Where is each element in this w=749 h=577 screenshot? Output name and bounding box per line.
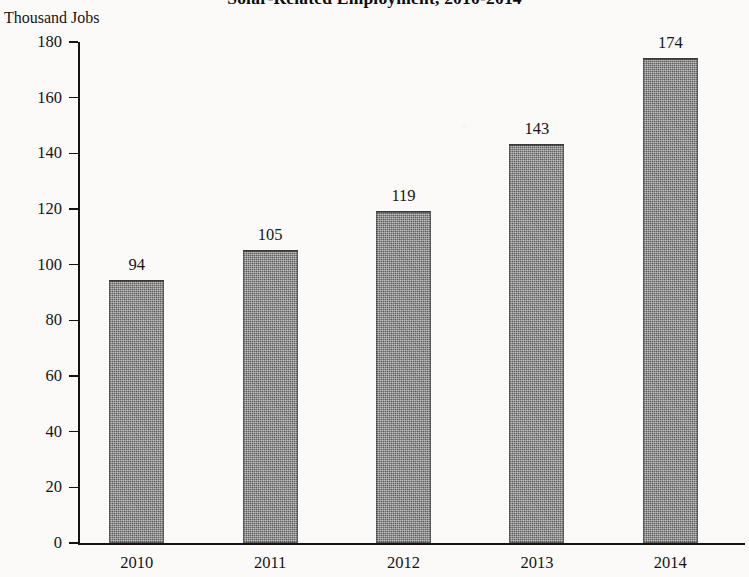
bar: [509, 144, 564, 543]
bar-value-label: 174: [658, 33, 683, 53]
bar: [643, 58, 698, 543]
y-axis-tick-label: 20: [46, 477, 63, 497]
bar-value-label: 143: [525, 119, 550, 139]
y-axis-tick: [69, 153, 78, 155]
chart-title-clip: Solar-Related Employment, 2010-2014: [0, 0, 749, 11]
y-axis-tick-label: 80: [46, 310, 63, 330]
bar-value-label: 105: [258, 225, 283, 245]
y-axis-tick: [69, 487, 78, 489]
y-axis-tick: [69, 208, 78, 210]
y-axis-tick-label: 60: [46, 366, 63, 386]
y-axis-tick-label: 100: [37, 255, 62, 275]
y-axis-tick: [69, 264, 78, 266]
y-axis-tick: [69, 97, 78, 99]
plot-area: 020406080100120140160180 94105119143174 …: [78, 42, 745, 543]
bar-chart: Solar-Related Employment, 2010-2014 Thou…: [0, 0, 749, 577]
x-axis-line: [78, 543, 745, 545]
y-axis-tick-label: 180: [37, 32, 62, 52]
y-axis-tick: [69, 431, 78, 433]
y-axis-tick-label: 160: [37, 88, 62, 108]
x-axis-tick-label: 2014: [654, 553, 687, 573]
bar: [109, 280, 164, 543]
y-axis-line: [78, 42, 80, 543]
chart-title: Solar-Related Employment, 2010-2014: [0, 0, 749, 9]
bar-value-label: 94: [128, 255, 145, 275]
y-axis-tick: [69, 542, 78, 544]
y-axis-tick: [69, 41, 78, 43]
x-axis-tick-label: 2012: [387, 553, 420, 573]
y-axis-tick-label: 0: [54, 533, 62, 553]
bar: [376, 211, 431, 543]
y-axis-tick-label: 140: [37, 143, 62, 163]
x-axis-tick-label: 2010: [120, 553, 153, 573]
x-axis-tick-label: 2011: [254, 553, 286, 573]
bar-value-label: 119: [391, 186, 415, 206]
x-axis-tick-label: 2013: [520, 553, 553, 573]
y-axis-tick: [69, 320, 78, 322]
y-axis-unit-label: Thousand Jobs: [4, 9, 100, 27]
y-axis-tick: [69, 375, 78, 377]
y-axis-tick-label: 40: [46, 422, 63, 442]
bar: [243, 250, 298, 543]
y-axis-tick-label: 120: [37, 199, 62, 219]
